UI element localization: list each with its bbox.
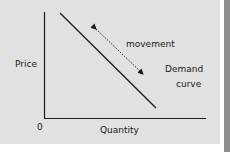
- y-axis-label: Price: [15, 59, 37, 69]
- x-axis-label: Quantity: [100, 125, 139, 135]
- demand-curve-line: [60, 13, 156, 108]
- movement-arrow: [96, 29, 143, 74]
- movement-label: movement: [126, 39, 175, 49]
- demand-label-line1: Demand: [165, 64, 203, 74]
- origin-label: 0: [37, 122, 43, 132]
- demand-label-line2: curve: [176, 79, 201, 89]
